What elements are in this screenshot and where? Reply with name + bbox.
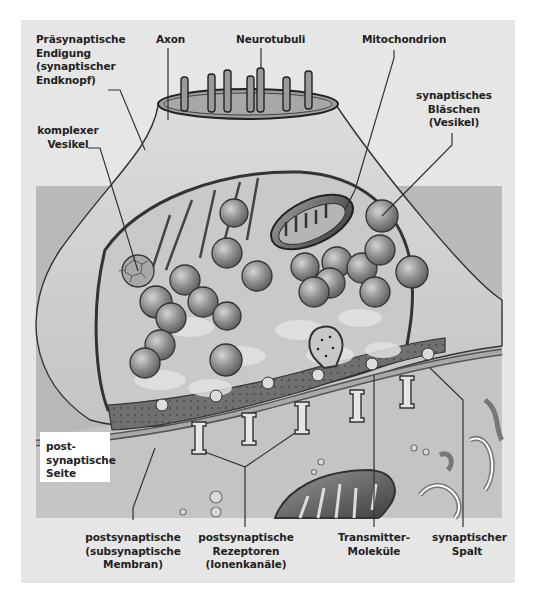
label-line: Seite [46, 467, 116, 481]
label-complex-vesicle: komplexer Vesikel [36, 124, 100, 151]
label-line: synaptisches [412, 89, 496, 103]
label-line: Rezeptoren [194, 545, 298, 559]
label-line: (synaptischer [36, 60, 125, 74]
label-line: Bläschen [412, 103, 496, 117]
label-line: synaptischer [432, 531, 502, 545]
label-line: (Vesikel) [412, 116, 496, 130]
label-line: Spalt [432, 545, 502, 559]
label-line: (Ionenkanäle) [194, 558, 298, 572]
label-line: postsynaptische [80, 531, 186, 545]
label-line: Moleküle [336, 545, 412, 559]
label-mitochondrion: Mitochondrion [362, 33, 446, 47]
label-line: komplexer [36, 124, 100, 138]
label-line: Präsynaptische [36, 33, 125, 47]
label-line: Endigung [36, 47, 125, 61]
label-line: post- [46, 440, 116, 454]
label-line: synaptische [46, 454, 116, 468]
label-postsynaptic-membrane: postsynaptische (subsynaptische Membran) [80, 531, 186, 572]
label-neurotubuli: Neurotubuli [236, 33, 305, 47]
label-line: Axon [156, 33, 185, 47]
label-axon: Axon [156, 33, 185, 47]
label-line: (subsynaptische [80, 545, 186, 559]
label-line: postsynaptische [194, 531, 298, 545]
label-line: Endknopf) [36, 74, 125, 88]
label-presynaptic-ending: Präsynaptische Endigung (synaptischer En… [36, 33, 125, 87]
label-line: Membran) [80, 558, 186, 572]
label-postsynaptic-receptors: postsynaptische Rezeptoren (Ionenkanäle) [194, 531, 298, 572]
label-line: Transmitter- [336, 531, 412, 545]
label-synaptic-cleft: synaptischer Spalt [432, 531, 502, 558]
label-transmitter-molecules: Transmitter- Moleküle [336, 531, 412, 558]
label-synaptic-vesicle: synaptisches Bläschen (Vesikel) [412, 89, 496, 130]
label-line: Mitochondrion [362, 33, 446, 47]
label-line: Neurotubuli [236, 33, 305, 47]
label-line: Vesikel [36, 138, 100, 152]
label-postsynaptic-side: post- synaptische Seite [46, 440, 116, 481]
